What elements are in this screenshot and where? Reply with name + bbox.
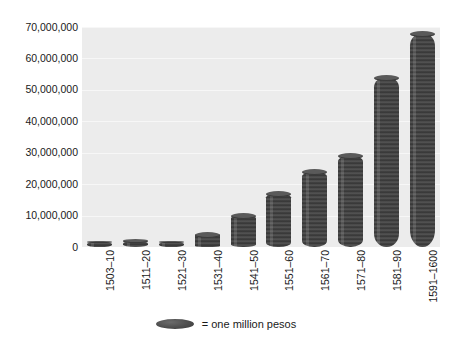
y-tick-label: 0	[0, 242, 78, 253]
y-tick-label: 50,000,000	[0, 84, 78, 95]
x-tick-label: 1561–70	[320, 250, 331, 291]
bar	[261, 27, 297, 247]
bar	[82, 27, 118, 247]
coin-stack	[410, 33, 435, 247]
y-tick-label: 70,000,000	[0, 22, 78, 33]
x-axis: 1503–101511–201521–301531–401541–501551–…	[82, 250, 440, 312]
bar	[225, 27, 261, 247]
coin-stack	[266, 194, 291, 247]
bar	[333, 27, 369, 247]
x-tick-label: 1571–80	[356, 250, 367, 291]
x-tick-label: 1521–30	[177, 250, 188, 291]
y-tick-label: 10,000,000	[0, 210, 78, 221]
coin-stack	[231, 216, 256, 247]
x-tick-label: 1511–20	[141, 250, 152, 290]
coin-stack	[374, 77, 399, 247]
bar	[189, 27, 225, 247]
plot-area	[82, 27, 440, 247]
coin-stack-bar-chart: 010,000,00020,000,00030,000,00040,000,00…	[0, 0, 452, 349]
y-tick-label: 40,000,000	[0, 116, 78, 127]
x-tick-label: 1503–10	[105, 250, 116, 291]
coin-stack	[195, 234, 220, 247]
bar	[297, 27, 333, 247]
y-tick-label: 30,000,000	[0, 147, 78, 158]
coin-stack	[159, 242, 184, 247]
legend-coin-icon	[156, 319, 194, 329]
coin-stack	[87, 242, 112, 247]
x-tick-label: 1591–1600	[428, 250, 439, 303]
coin-stack	[123, 241, 148, 247]
coin-stack	[302, 172, 327, 247]
x-tick-label: 1581–90	[392, 250, 403, 291]
x-tick-label: 1551–60	[284, 250, 295, 291]
x-tick-label: 1541–50	[249, 250, 260, 291]
legend-label: = one million pesos	[202, 318, 296, 330]
y-axis: 010,000,00020,000,00030,000,00040,000,00…	[0, 0, 78, 349]
x-tick-label: 1531–40	[213, 250, 224, 291]
y-tick-label: 60,000,000	[0, 53, 78, 64]
bar	[154, 27, 190, 247]
bar	[118, 27, 154, 247]
legend: = one million pesos	[0, 318, 452, 330]
coin-stack	[338, 156, 363, 247]
bar	[404, 27, 440, 247]
y-tick-label: 20,000,000	[0, 179, 78, 190]
bar	[368, 27, 404, 247]
